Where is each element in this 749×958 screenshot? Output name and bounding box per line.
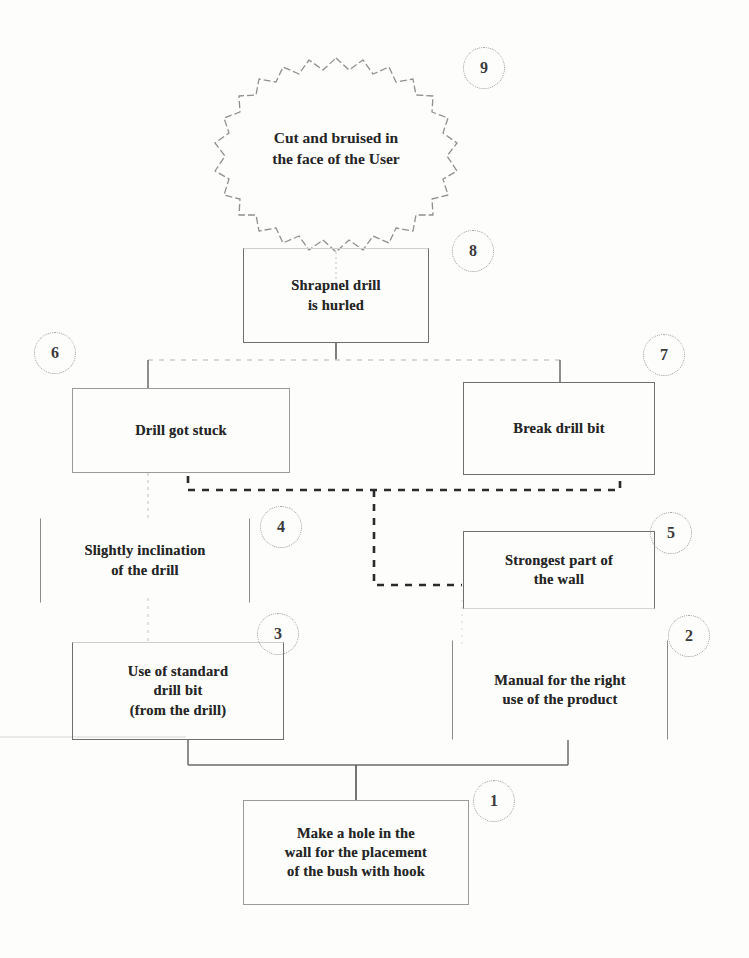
node-1-label: Make a hole in the wall for the placemen…	[285, 824, 427, 881]
node-4-slightly-inclination-of-the-drill[interactable]: Slightly inclination of the drill	[40, 518, 250, 603]
node-5-strongest-part-of-the-wall[interactable]: Strongest part of the wall	[463, 531, 655, 609]
badge-8-number: 8	[469, 242, 477, 260]
badge-2-number: 2	[685, 627, 693, 645]
badge-3[interactable]: 3	[257, 613, 299, 655]
badge-9-number: 9	[480, 59, 488, 77]
node-3-label: Use of standard drill bit (from the dril…	[128, 662, 228, 719]
node-7-label: Break drill bit	[513, 419, 604, 438]
badge-7[interactable]: 7	[643, 334, 685, 376]
node-9-cut-and-bruised[interactable]: Cut and bruised in the face of the User	[210, 58, 462, 248]
badge-4[interactable]: 4	[260, 506, 302, 548]
badge-4-number: 4	[277, 518, 285, 536]
edge-6-to-7-dashed	[188, 476, 620, 490]
edge-dashed-branch-to-5	[374, 490, 462, 585]
node-6-drill-got-stuck[interactable]: Drill got stuck	[72, 388, 290, 473]
node-8-shrapnel-drill-is-hurled[interactable]: Shrapnel drill is hurled	[243, 248, 429, 343]
badge-9[interactable]: 9	[463, 47, 505, 89]
node-7-break-drill-bit[interactable]: Break drill bit	[463, 382, 655, 475]
node-6-label: Drill got stuck	[135, 421, 227, 440]
node-2-label: Manual for the right use of the product	[494, 671, 625, 709]
badge-5-number: 5	[667, 524, 675, 542]
node-9-label: Cut and bruised in the face of the User	[210, 58, 462, 248]
node-4-label: Slightly inclination of the drill	[84, 541, 205, 579]
node-5-label: Strongest part of the wall	[505, 551, 613, 589]
badge-7-number: 7	[660, 346, 668, 364]
badge-1[interactable]: 1	[473, 780, 515, 822]
node-2-manual-for-the-right-use[interactable]: Manual for the right use of the product	[452, 640, 668, 740]
badge-1-number: 1	[490, 792, 498, 810]
badge-2[interactable]: 2	[668, 615, 710, 657]
node-1-make-a-hole-in-the-wall[interactable]: Make a hole in the wall for the placemen…	[243, 800, 469, 905]
node-8-label: Shrapnel drill is hurled	[291, 276, 380, 314]
badge-3-number: 3	[274, 625, 282, 643]
badge-5[interactable]: 5	[650, 512, 692, 554]
badge-8[interactable]: 8	[452, 230, 494, 272]
node-3-use-of-standard-drill-bit[interactable]: Use of standard drill bit (from the dril…	[72, 642, 284, 740]
badge-6-number: 6	[51, 344, 59, 362]
badge-6[interactable]: 6	[34, 332, 76, 374]
